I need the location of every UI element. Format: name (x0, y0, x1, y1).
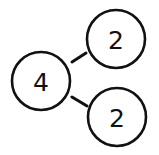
part-label-top: 2 (108, 26, 124, 55)
number-bond-diagram: 4 2 2 (0, 0, 159, 155)
whole-label: 4 (33, 68, 49, 97)
connector-top (72, 53, 86, 62)
part-label-bottom: 2 (109, 104, 125, 133)
diagram-svg: 4 2 2 (0, 0, 159, 155)
connector-bottom (72, 97, 87, 106)
